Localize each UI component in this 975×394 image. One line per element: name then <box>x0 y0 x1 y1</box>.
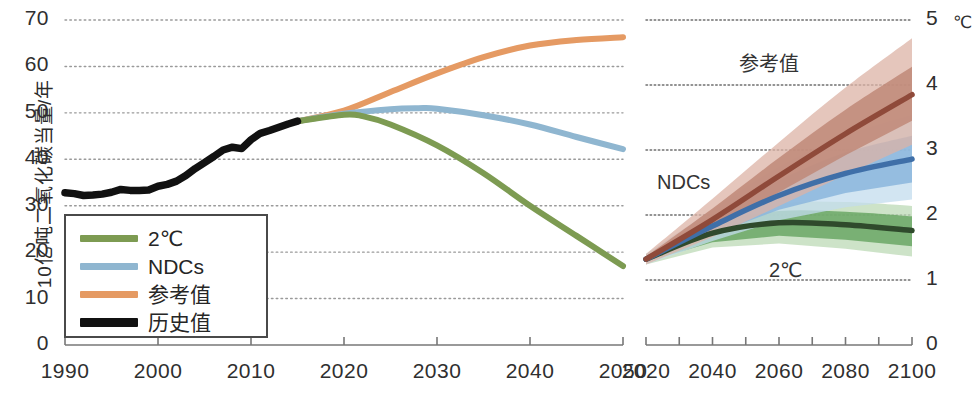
y-axis-title-left: 10亿吨二氧化碳当量/年 <box>29 44 56 324</box>
right-axis-unit: ℃ <box>953 12 972 33</box>
x-tick-2030: 2030 <box>397 359 477 383</box>
y-tick-right-1: 1 <box>926 266 956 290</box>
x-tick-2040: 2040 <box>490 359 570 383</box>
legend-item-2[interactable]: 参考值 <box>80 280 266 308</box>
legend-label-1: NDCs <box>148 256 204 277</box>
y-tick-left-10: 10 <box>5 285 49 309</box>
legend-item-0[interactable]: 2℃ <box>80 224 266 252</box>
annotation-reference: 参考值 <box>739 48 799 77</box>
y-tick-left-40: 40 <box>5 145 49 169</box>
y-tick-left-50: 50 <box>5 99 49 123</box>
legend-item-1[interactable]: NDCs <box>80 252 266 280</box>
y-tick-left-20: 20 <box>5 238 49 262</box>
y-tick-left-70: 70 <box>5 6 49 30</box>
y-tick-right-4: 4 <box>926 71 956 95</box>
legend-swatch-1 <box>80 263 138 270</box>
legend-swatch-2 <box>80 291 138 298</box>
y-tick-left-60: 60 <box>5 52 49 76</box>
series-line-历史值 <box>65 121 298 195</box>
climate-projection-figure: 10亿吨二氧化碳当量/年 010203040506070199020002010… <box>0 0 975 394</box>
y-tick-right-3: 3 <box>926 136 956 160</box>
x-tick-2020: 2020 <box>304 359 384 383</box>
annotation-two-degrees: 2℃ <box>769 258 803 282</box>
legend-box: 2℃NDCs参考值历史值 <box>64 214 268 338</box>
x-tick-right-2100: 2100 <box>872 359 952 383</box>
legend-label-0: 2℃ <box>148 228 183 249</box>
legend-item-3[interactable]: 历史值 <box>80 308 266 336</box>
legend-swatch-3 <box>80 318 138 327</box>
legend-label-3: 历史值 <box>148 312 211 333</box>
legend-label-2: 参考值 <box>148 284 211 305</box>
y-tick-left-0: 0 <box>5 331 49 355</box>
y-tick-right-2: 2 <box>926 201 956 225</box>
annotation-ndcs: NDCs <box>657 171 710 194</box>
y-tick-left-30: 30 <box>5 192 49 216</box>
y-tick-right-5: 5 <box>926 6 956 30</box>
x-tick-2010: 2010 <box>211 359 291 383</box>
x-tick-1990: 1990 <box>25 359 105 383</box>
y-tick-right-0: 0 <box>926 331 956 355</box>
legend-swatch-0 <box>80 235 138 242</box>
x-tick-2000: 2000 <box>118 359 198 383</box>
